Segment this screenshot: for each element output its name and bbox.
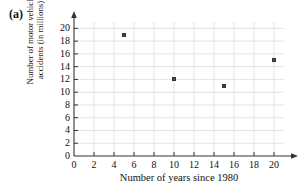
y-tick-label: 16 [52, 49, 70, 59]
plot-area [74, 22, 284, 156]
y-tick-label: 4 [52, 125, 70, 135]
y-tick-label: 10 [52, 87, 70, 97]
chart-screenshot: (a) Number of motor vehicle accidents (i… [0, 0, 306, 194]
y-axis-title: Number of motor vehicle accidents (in mi… [23, 0, 47, 100]
y-axis-arrow-icon [71, 11, 77, 18]
y-axis-title-line-1: Number of motor vehicle [25, 0, 35, 84]
scatter-plot-figure: Number of motor vehicle accidents (in mi… [0, 0, 306, 194]
x-tick-label: 12 [185, 160, 203, 170]
x-tick-label: 0 [65, 160, 83, 170]
data-points-layer [74, 22, 284, 156]
data-point [172, 77, 176, 81]
x-tick-label: 6 [125, 160, 143, 170]
x-axis-title: Number of years since 1980 [74, 172, 284, 184]
x-tick-label: 2 [85, 160, 103, 170]
data-point [122, 33, 126, 37]
x-tick-label: 4 [105, 160, 123, 170]
x-tick-label: 14 [205, 160, 223, 170]
y-tick-label: 2 [52, 138, 70, 148]
data-point [222, 84, 226, 88]
y-tick-label: 12 [52, 74, 70, 84]
x-axis-arrow-icon [291, 153, 298, 159]
y-tick-label: 8 [52, 100, 70, 110]
y-axis-title-line-2: accidents (in millions) [35, 1, 45, 79]
y-tick-label: 20 [52, 23, 70, 33]
x-tick-label: 18 [245, 160, 263, 170]
y-tick-label: 18 [52, 36, 70, 46]
y-tick-label: 14 [52, 62, 70, 72]
x-tick-label: 20 [265, 160, 283, 170]
x-tick-label: 10 [165, 160, 183, 170]
x-tick-label: 16 [225, 160, 243, 170]
x-tick-label: 8 [145, 160, 163, 170]
y-tick-label: 6 [52, 113, 70, 123]
data-point [272, 58, 276, 62]
